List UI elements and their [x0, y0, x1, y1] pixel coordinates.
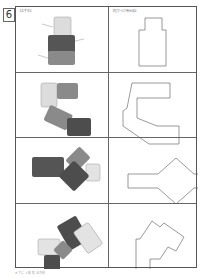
row3-model — [32, 146, 100, 191]
row4-model — [38, 215, 103, 269]
worksheet-table: 【お手本】 【貼りつけ用台紙】 — [15, 6, 197, 268]
puzzle-figures — [16, 7, 198, 269]
row4-outline — [136, 221, 184, 269]
row2-outline — [123, 83, 179, 144]
row1-model — [38, 17, 84, 65]
row1-outline — [139, 18, 166, 66]
footer-note: ※ 下に 1 枚 貼 る方向 — [15, 271, 45, 275]
problem-number: 6 — [3, 8, 15, 22]
row3-outline — [128, 158, 198, 204]
row2-model — [41, 83, 91, 136]
